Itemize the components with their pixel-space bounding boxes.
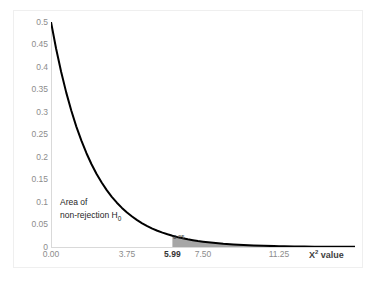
x-axis-tick-label: 7.50 <box>195 250 212 259</box>
non-rejection-annotation: Area of non-rejection H0 <box>60 196 121 225</box>
x-axis-tick-label: 5.99 <box>164 250 181 259</box>
non-rejection-annotation-subscript: 0 <box>118 215 122 222</box>
non-rejection-annotation-line2: non-rejection H0 <box>60 209 121 225</box>
x-axis-title: X2 value <box>309 249 344 260</box>
non-rejection-annotation-line1: Area of <box>60 196 121 209</box>
x-axis-title-suffix: value <box>318 250 344 260</box>
x-axis-tick-label: 11.25 <box>269 250 290 259</box>
x-axis-tick-label: 3.75 <box>119 250 136 259</box>
x-axis-tick-label: 0.00 <box>43 250 60 259</box>
alpha-value-label: 0.05 <box>173 234 185 240</box>
non-rejection-annotation-line2-text: non-rejection H <box>60 210 118 220</box>
